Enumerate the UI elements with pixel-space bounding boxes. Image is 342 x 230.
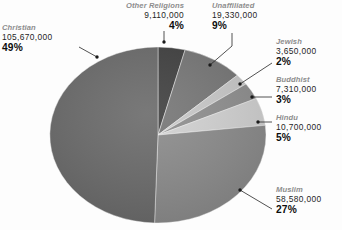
slice-label-hindu: Hindu 10,700,000 5%	[276, 114, 340, 143]
slice-label-christian: Christian 105,670,000 49%	[2, 24, 92, 53]
pie-chart: Other Religions 9,110,000 4% Unaffiliate…	[0, 0, 342, 230]
pie-shading-overlay	[50, 47, 266, 223]
slice-label-value: 10,700,000	[276, 123, 340, 132]
leader-muslim	[240, 190, 272, 209]
slice-label-jewish: Jewish 3,650,000 2%	[276, 38, 340, 67]
slice-label-value: 3,650,000	[276, 47, 340, 56]
leader-dot-buddhist	[250, 95, 253, 98]
leader-dot-other-religions	[162, 40, 165, 43]
leader-dot-jewish	[238, 82, 241, 85]
slice-label-muslim: Muslim 58,580,000 27%	[276, 186, 340, 215]
slice-label-value: 19,330,000	[212, 11, 304, 20]
slice-label-unaffiliated: Unaffiliated 19,330,000 9%	[212, 2, 304, 31]
slice-label-percent: 2%	[276, 56, 340, 67]
leader-dot-unaffiliated	[208, 63, 211, 66]
slice-label-percent: 3%	[276, 94, 340, 105]
slice-label-percent: 27%	[276, 204, 340, 215]
leader-dot-hindu	[256, 120, 259, 123]
slice-label-value: 9,110,000	[88, 11, 184, 20]
slice-label-percent: 49%	[2, 42, 92, 53]
leader-dot-christian	[95, 55, 98, 58]
slice-label-percent: 4%	[88, 20, 184, 31]
slice-label-value: 105,670,000	[2, 33, 92, 42]
slice-label-other-religions: Other Religions 9,110,000 4%	[88, 2, 184, 31]
slice-label-value: 7,310,000	[276, 85, 340, 94]
leader-jewish	[240, 63, 272, 84]
slice-label-percent: 5%	[276, 132, 340, 143]
slice-label-value: 58,580,000	[276, 195, 340, 204]
leader-dot-muslim	[238, 188, 241, 191]
slice-label-percent: 9%	[212, 20, 304, 31]
slice-label-buddhist: Buddhist 7,310,000 3%	[276, 76, 340, 105]
